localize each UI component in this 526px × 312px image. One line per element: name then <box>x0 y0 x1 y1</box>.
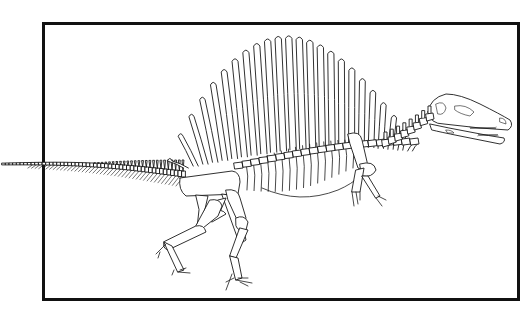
chevron <box>143 173 149 181</box>
cervical-spine <box>403 123 406 130</box>
caudal-vertebra <box>156 168 159 173</box>
chevron <box>162 175 169 183</box>
caudal-vertebra <box>123 165 126 170</box>
caudal-neural-spine <box>153 160 155 167</box>
cervical-spine <box>384 132 387 139</box>
caudal-vertebra <box>153 168 156 173</box>
chevron <box>169 176 176 185</box>
caudal-vertebra <box>109 164 112 168</box>
caudal-vertebra <box>24 163 27 165</box>
caudal-neural-spine <box>149 160 151 167</box>
neural-spine <box>296 37 306 149</box>
neural-spine <box>328 51 335 146</box>
caudal-vertebra <box>83 163 86 167</box>
caudal-vertebra <box>171 170 174 176</box>
dorsal-vertebra <box>335 143 344 150</box>
caudal-vertebra <box>175 170 178 176</box>
caudal-neural-spine <box>138 161 140 167</box>
caudal-vertebra <box>116 164 119 168</box>
dorsal-vertebra <box>276 153 285 160</box>
skull <box>428 94 512 130</box>
caudal-neural-spine <box>142 161 144 167</box>
caudal-neural-spine <box>134 161 136 166</box>
chevron <box>28 165 32 168</box>
dorsal-vertebra <box>234 162 243 169</box>
caudal-vertebra <box>164 169 167 175</box>
caudal-vertebra <box>112 164 115 168</box>
caudal-vertebra <box>105 164 108 168</box>
caudal-vertebra <box>94 163 97 167</box>
chevron <box>151 174 158 182</box>
neural-spine <box>368 90 376 147</box>
chevron <box>158 175 165 183</box>
caudal-vertebra <box>138 166 141 171</box>
caudal-vertebra <box>145 167 148 172</box>
caudal-vertebra <box>142 167 145 172</box>
caudal-neural-spine <box>123 161 125 165</box>
caudal-neural-spine <box>160 160 162 168</box>
caudal-vertebra <box>134 166 137 171</box>
caudal-vertebra <box>53 162 56 165</box>
caudal-vertebra <box>167 169 170 175</box>
cervical-vertebra <box>426 113 434 121</box>
caudal-neural-spine <box>145 160 147 167</box>
dorsal-vertebra <box>326 144 335 151</box>
dorsal-sail-spines <box>167 36 417 168</box>
caudal-vertebra <box>42 162 45 165</box>
caudal-vertebra <box>2 163 5 165</box>
dorsal-vertebra <box>251 158 260 165</box>
caudal-vertebra <box>31 162 34 164</box>
near-tibia <box>230 228 248 258</box>
humerus <box>352 168 364 192</box>
neural-spine <box>307 40 316 148</box>
cervical-spine <box>428 106 431 113</box>
caudal-neural-spine <box>156 160 158 168</box>
dorsal-vertebra <box>268 155 277 162</box>
caudal-vertebra <box>75 162 78 166</box>
neural-spine <box>264 39 276 152</box>
caudal-vertebra <box>90 163 93 167</box>
caudal-vertebra <box>149 167 152 172</box>
dorsal-vertebra <box>301 148 310 155</box>
forearm <box>362 176 380 198</box>
caudal-vertebra <box>72 162 75 165</box>
neural-spine <box>286 36 297 150</box>
dorsal-vertebra <box>293 150 302 157</box>
tail-vertebrae <box>2 160 185 186</box>
caudal-vertebra <box>120 165 123 170</box>
cervical-spine <box>409 119 412 126</box>
near-metatarsus <box>230 256 242 280</box>
caudal-vertebra <box>160 169 163 174</box>
caudal-vertebra <box>35 162 38 165</box>
neural-spine <box>275 36 287 150</box>
caudal-neural-spine <box>164 160 166 169</box>
chevron <box>165 175 172 184</box>
caudal-vertebra <box>79 163 82 167</box>
cervical-spine <box>397 126 400 133</box>
dorsal-vertebra <box>284 152 293 159</box>
dorsal-vertebra <box>309 147 318 154</box>
caudal-vertebra <box>98 163 101 167</box>
dorsal-vertebra <box>259 157 268 164</box>
caudal-vertebra <box>86 163 89 167</box>
chevron <box>147 173 154 181</box>
chevron <box>154 174 161 182</box>
caudal-vertebra <box>17 163 20 165</box>
caudal-vertebra <box>64 162 67 165</box>
caudal-vertebra <box>39 162 42 165</box>
caudal-vertebra <box>68 162 71 165</box>
caudal-vertebra <box>20 163 23 165</box>
caudal-vertebra <box>127 165 130 170</box>
cervical-spine <box>390 129 393 136</box>
caudal-neural-spine <box>127 161 128 165</box>
dorsal-vertebra <box>242 160 251 167</box>
hand <box>352 192 386 206</box>
dorsal-vertebra <box>368 140 377 147</box>
caudal-vertebra <box>13 163 16 165</box>
caudal-vertebra <box>178 171 181 177</box>
caudal-vertebra <box>6 163 9 165</box>
cervical-spine <box>415 115 418 122</box>
caudal-vertebra <box>101 164 104 168</box>
caudal-neural-spine <box>131 161 133 166</box>
cervical-spine <box>422 111 425 118</box>
